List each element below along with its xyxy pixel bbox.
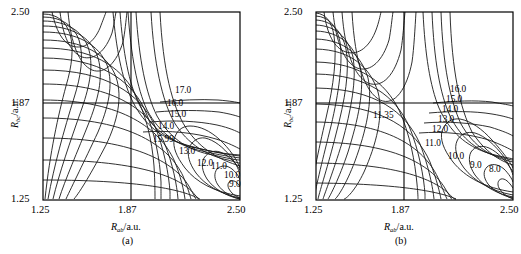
svg-text:11.35: 11.35	[373, 110, 394, 120]
svg-text:10.0: 10.0	[448, 151, 465, 161]
svg-text:14.0: 14.0	[158, 121, 175, 131]
panel-a-yaxis-title: Rbc/a.u.	[9, 99, 21, 128]
panel-a-caption: (a)	[122, 235, 133, 246]
panel-a-xtick-mid: 1.87	[118, 205, 136, 216]
svg-text:16.0: 16.0	[167, 98, 184, 108]
panel-a-yaxis-unit: /a.u.	[9, 99, 20, 116]
panel-b-contours	[310, 12, 513, 199]
panel-a: 17.0 16.0 15.0 14.0 15.99 13.0 12.0 11.0…	[0, 0, 260, 254]
panel-a-yaxis-symbol: R	[9, 122, 20, 128]
panel-b-yaxis-unit: /a.u.	[282, 99, 293, 116]
svg-text:12.0: 12.0	[432, 124, 449, 134]
svg-text:11.0: 11.0	[425, 138, 441, 148]
svg-text:8.0: 8.0	[489, 164, 501, 174]
figure-container: 17.0 16.0 15.0 14.0 15.99 13.0 12.0 11.0…	[0, 0, 521, 254]
panel-b-caption: (b)	[395, 235, 407, 246]
panel-b-xaxis-title: Rab/a.u.	[384, 221, 414, 233]
panel-b-ytick-top: 2.50	[284, 7, 302, 18]
svg-text:14.0: 14.0	[442, 104, 459, 114]
svg-text:13.0: 13.0	[179, 146, 196, 156]
svg-text:9.0: 9.0	[470, 160, 482, 170]
panel-b-plot: 16.0 15.0 14.0 11.35 13.0 12.0 11.0 10.0…	[260, 0, 521, 254]
panel-b: 16.0 15.0 14.0 11.35 13.0 12.0 11.0 10.0…	[260, 0, 520, 254]
svg-text:17.0: 17.0	[175, 85, 192, 95]
panel-a-xaxis-unit: /a.u.	[124, 221, 141, 232]
panel-a-xaxis-title: Rab/a.u.	[111, 221, 141, 233]
panel-b-xaxis-unit: /a.u.	[397, 221, 414, 232]
panel-a-xtick-right: 2.50	[227, 205, 245, 216]
panel-a-ytick-bottom: 1.25	[11, 194, 29, 205]
svg-text:9.0: 9.0	[229, 179, 241, 189]
svg-text:15.99: 15.99	[153, 134, 174, 144]
panel-a-xtick-left: 1.25	[31, 205, 49, 216]
panel-a-plot: 17.0 16.0 15.0 14.0 15.99 13.0 12.0 11.0…	[0, 0, 260, 254]
svg-text:15.0: 15.0	[446, 94, 463, 104]
panel-b-xtick-mid: 1.87	[391, 205, 409, 216]
panel-b-ytick-bottom: 1.25	[284, 194, 302, 205]
panel-b-yaxis-subscript: bc	[287, 116, 294, 122]
panel-b-contour-labels: 16.0 15.0 14.0 11.35 13.0 12.0 11.0 10.0…	[373, 84, 501, 174]
panel-b-yaxis-symbol: R	[282, 122, 293, 128]
svg-text:15.0: 15.0	[170, 109, 187, 119]
svg-text:16.0: 16.0	[450, 84, 467, 94]
panel-b-xtick-right: 2.50	[500, 205, 518, 216]
panel-b-xtick-left: 1.25	[304, 205, 322, 216]
panel-b-yaxis-title: Rbc/a.u.	[282, 99, 294, 128]
panel-a-ytick-top: 2.50	[11, 7, 29, 18]
svg-text:13.0: 13.0	[438, 114, 455, 124]
panel-a-yaxis-subscript: bc	[14, 116, 21, 122]
